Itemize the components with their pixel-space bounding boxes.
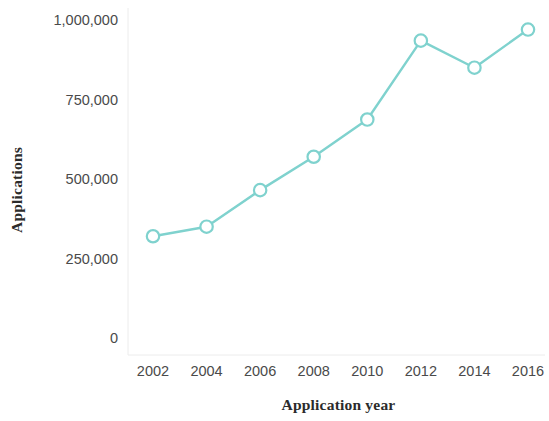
data-point-2010 [361, 113, 373, 125]
data-point-2016 [522, 23, 534, 35]
data-point-2008 [308, 151, 320, 163]
series-markers [147, 23, 534, 242]
chart-canvas [0, 0, 549, 421]
data-point-2006 [254, 184, 266, 196]
x-axis-title: Application year [128, 396, 549, 414]
line-chart-figure: 0250,000500,000750,0001,000,000 20022004… [0, 0, 549, 421]
plot-area [0, 0, 549, 421]
axis-lines [128, 8, 545, 355]
data-point-2012 [415, 34, 427, 46]
data-point-2014 [468, 61, 480, 73]
data-point-2002 [147, 230, 159, 242]
data-point-2004 [200, 221, 212, 233]
series-line-applications [153, 30, 528, 237]
